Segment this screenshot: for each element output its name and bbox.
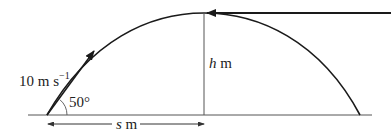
angle-arc bbox=[60, 100, 67, 115]
height-label: h m bbox=[209, 56, 232, 71]
projectile-diagram bbox=[0, 0, 391, 134]
distance-label: s m bbox=[116, 117, 137, 132]
speed-label: 10 m s−1 bbox=[19, 72, 70, 89]
angle-label: 50° bbox=[69, 95, 90, 110]
